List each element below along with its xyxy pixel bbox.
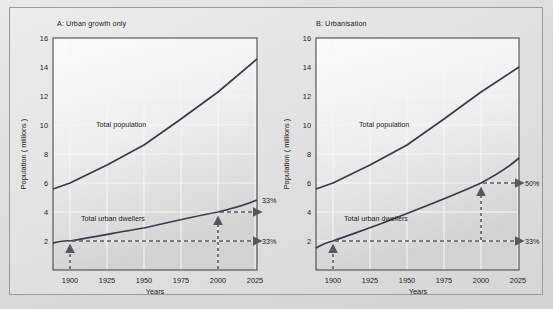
svg-text:8: 8 — [307, 150, 311, 159]
panel-a-annotation-pct-2000: 33% — [262, 196, 277, 205]
svg-text:2: 2 — [44, 237, 48, 246]
panel-a-xaxis-label: Years — [146, 287, 165, 296]
svg-text:10: 10 — [40, 121, 48, 130]
svg-text:1925: 1925 — [99, 276, 115, 285]
svg-text:1925: 1925 — [362, 276, 378, 285]
panel-a-annotation-pct-1900: 33% — [262, 237, 277, 246]
svg-text:6: 6 — [307, 179, 311, 188]
svg-text:1975: 1975 — [436, 276, 452, 285]
svg-text:1975: 1975 — [173, 276, 189, 285]
svg-text:14: 14 — [40, 63, 48, 72]
panel-a-ytick-labels: 16 14 12 10 8 6 4 2 — [40, 34, 48, 246]
figure-canvas: A: Urban growth only — [0, 0, 553, 309]
panel-b-annotation-pct-1900: 33% — [525, 237, 540, 246]
svg-text:4: 4 — [307, 208, 311, 217]
svg-text:10: 10 — [303, 121, 311, 130]
svg-text:2025: 2025 — [510, 276, 526, 285]
svg-text:1950: 1950 — [136, 276, 152, 285]
chart-panel-a: A: Urban growth only — [10, 8, 278, 296]
svg-text:16: 16 — [40, 34, 48, 43]
svg-text:1950: 1950 — [399, 276, 415, 285]
svg-text:4: 4 — [44, 208, 48, 217]
svg-text:14: 14 — [303, 63, 311, 72]
svg-text:6: 6 — [44, 179, 48, 188]
svg-text:2025: 2025 — [247, 276, 263, 285]
panel-b-xtick-labels: 1900 1925 1950 1975 2000 2025 — [325, 276, 526, 285]
chart-panel-b: B: Urbanisation — [278, 8, 544, 296]
svg-text:2000: 2000 — [473, 276, 489, 285]
panel-b-xaxis-label: Years — [409, 287, 428, 296]
svg-text:1900: 1900 — [325, 276, 341, 285]
panel-b-plot: 16 14 12 10 8 6 4 2 1900 1925 1950 1975 … — [278, 8, 544, 296]
figure-frame: A: Urban growth only — [9, 7, 543, 295]
svg-text:12: 12 — [303, 92, 311, 101]
panel-b-yaxis-label: Population ( millions ) — [282, 119, 291, 190]
svg-text:8: 8 — [44, 150, 48, 159]
panel-b-annotation-pct-2000: 50% — [525, 179, 540, 188]
panel-a-total-population-label: Total population — [96, 120, 146, 129]
panel-b-urban-dwellers-label: Total urban dwellers — [344, 214, 408, 223]
panel-a-urban-dwellers-label: Total urban dwellers — [81, 214, 145, 223]
panel-b-total-population-label: Total population — [359, 120, 409, 129]
panel-a-yaxis-label: Population ( millions ) — [19, 119, 28, 190]
panel-a-xtick-labels: 1900 1925 1950 1975 2000 2025 — [62, 276, 263, 285]
panel-b-ytick-labels: 16 14 12 10 8 6 4 2 — [303, 34, 311, 246]
svg-text:2: 2 — [307, 237, 311, 246]
svg-text:12: 12 — [40, 92, 48, 101]
svg-text:2000: 2000 — [210, 276, 226, 285]
svg-text:16: 16 — [303, 34, 311, 43]
svg-text:1900: 1900 — [62, 276, 78, 285]
panel-a-plot: 16 14 12 10 8 6 4 2 1900 1925 1950 1975 … — [10, 8, 278, 296]
